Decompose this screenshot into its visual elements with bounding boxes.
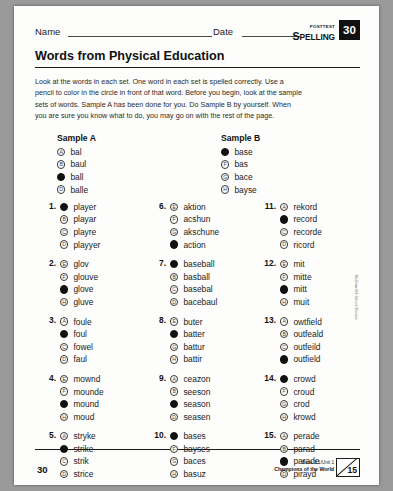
bubble-g-empty[interactable]: G [170,228,178,236]
bubble-b-empty[interactable]: B [280,330,288,338]
score-box[interactable]: 15 [336,458,360,477]
q7-option-c[interactable]: Cbasebal [170,283,219,296]
bubble-b-filled[interactable]: B [60,330,68,338]
bubble-d-empty[interactable]: D [57,185,65,193]
q6-option-g[interactable]: Gakschune [170,226,219,239]
bubble-b-empty[interactable]: B [170,387,178,395]
q12-option-g[interactable]: Gmitt [280,283,323,296]
bubble-g-empty[interactable]: G [221,173,229,181]
bubble-d-empty[interactable]: D [280,240,288,248]
bubble-a-empty[interactable]: A [280,432,288,440]
q8-option-g[interactable]: Gbattur [170,340,219,353]
bubble-e-empty[interactable]: E [60,375,68,383]
q1-option-b[interactable]: Bplayar [60,213,104,226]
q11-option-b[interactable]: Brecord [280,213,323,226]
sample-a-option-c[interactable]: Cball [57,171,96,184]
bubble-e-filled[interactable]: E [170,432,178,440]
q5-option-b[interactable]: Bstrike [60,443,104,456]
q13-option-a[interactable]: Aowtfield [280,315,323,328]
q9-option-d[interactable]: Dseasen [170,410,219,423]
bubble-h-filled[interactable]: H [170,240,178,248]
sample-b-option-h[interactable]: Hbayse [221,183,260,196]
q2-option-e[interactable]: Eglov [60,258,104,271]
q15-option-a[interactable]: Aperade [280,430,323,443]
q2-option-g[interactable]: Gglove [60,283,104,296]
bubble-h-empty[interactable]: H [221,185,229,193]
bubble-d-empty[interactable]: D [170,413,178,421]
q8-option-e[interactable]: Ebuter [170,315,219,328]
bubble-a-empty[interactable]: A [57,148,65,156]
sample-a-option-b[interactable]: Bbaul [57,158,96,171]
bubble-h-empty[interactable]: H [280,413,288,421]
q11-option-a[interactable]: Arekord [280,201,323,214]
bubble-c-empty[interactable]: C [280,343,288,351]
q4-option-g[interactable]: Gmound [60,398,104,411]
q14-option-e[interactable]: Ecrowd [280,373,323,386]
sample-b-option-g[interactable]: Gbace [221,171,260,184]
q12-option-f[interactable]: Fmitte [280,270,323,283]
bubble-h-empty[interactable]: H [60,298,68,306]
bubble-d-empty[interactable]: D [60,240,68,248]
q9-option-c[interactable]: Cseason [170,398,219,411]
q6-option-h[interactable]: Haction [170,238,219,251]
bubble-e-empty[interactable]: E [60,260,68,268]
q13-option-d[interactable]: Doutfield [280,353,323,366]
bubble-f-empty[interactable]: F [280,387,288,395]
bubble-g-empty[interactable]: G [280,400,288,408]
bubble-a-empty[interactable]: A [280,317,288,325]
bubble-a-empty[interactable]: A [60,432,68,440]
bubble-f-empty[interactable]: F [60,273,68,281]
bubble-f-empty[interactable]: F [280,273,288,281]
bubble-b-empty[interactable]: B [280,445,288,453]
q1-option-c[interactable]: Cplayre [60,226,104,239]
bubble-a-empty[interactable]: A [280,203,288,211]
bubble-e-filled[interactable]: E [221,148,229,156]
bubble-g-filled[interactable]: G [280,285,288,293]
q12-option-e[interactable]: Emit [280,258,323,271]
q10-option-e[interactable]: Ebases [170,430,219,443]
bubble-c-filled[interactable]: C [170,400,178,408]
bubble-e-empty[interactable]: E [170,317,178,325]
sample-a-option-d[interactable]: Dballe [57,183,96,196]
bubble-b-empty[interactable]: B [57,160,65,168]
bubble-h-empty[interactable]: H [280,298,288,306]
q11-option-c[interactable]: Crecorde [280,226,323,239]
bubble-g-empty[interactable]: G [170,343,178,351]
bubble-c-empty[interactable]: C [280,228,288,236]
q13-option-b[interactable]: Boutfeald [280,328,323,341]
sample-b-option-e[interactable]: Ebase [221,146,260,159]
q13-option-c[interactable]: Coutfeild [280,340,323,353]
q2-option-f[interactable]: Fglouve [60,270,104,283]
bubble-b-filled[interactable]: B [60,445,68,453]
bubble-a-filled[interactable]: A [60,203,68,211]
bubble-f-empty[interactable]: F [221,160,229,168]
q7-option-d[interactable]: Dbacebaul [170,296,219,309]
bubble-d-empty[interactable]: D [170,298,178,306]
q4-option-e[interactable]: Emownd [60,373,104,386]
q1-option-a[interactable]: Aplayer [60,201,104,214]
bubble-e-empty[interactable]: E [170,203,178,211]
q7-option-a[interactable]: Abaseball [170,258,219,271]
q12-option-h[interactable]: Hmuit [280,296,323,309]
q8-option-f[interactable]: Fbatter [170,328,219,341]
date-write-line[interactable] [242,36,300,37]
q15-option-b[interactable]: Bparad [280,443,323,456]
q9-option-b[interactable]: Bseeson [170,385,219,398]
sample-b-option-f[interactable]: Fbas [221,158,260,171]
q2-option-h[interactable]: Hgluve [60,296,104,309]
bubble-c-empty[interactable]: C [170,285,178,293]
q8-option-h[interactable]: Hbattir [170,353,219,366]
q4-option-h[interactable]: Hmoud [60,410,104,423]
bubble-b-empty[interactable]: B [170,273,178,281]
sample-a-option-a[interactable]: Abal [57,146,96,159]
bubble-d-empty[interactable]: D [60,355,68,363]
q11-option-d[interactable]: Dricord [280,238,323,251]
bubble-g-filled[interactable]: G [60,285,68,293]
q3-option-c[interactable]: Cfowel [60,340,104,353]
q14-option-h[interactable]: Hkrowd [280,410,323,423]
bubble-f-filled[interactable]: F [170,330,178,338]
bubble-e-filled[interactable]: E [280,375,288,383]
bubble-g-filled[interactable]: G [60,400,68,408]
bubble-c-filled[interactable]: C [57,173,65,181]
q9-option-a[interactable]: Aceazon [170,373,219,386]
